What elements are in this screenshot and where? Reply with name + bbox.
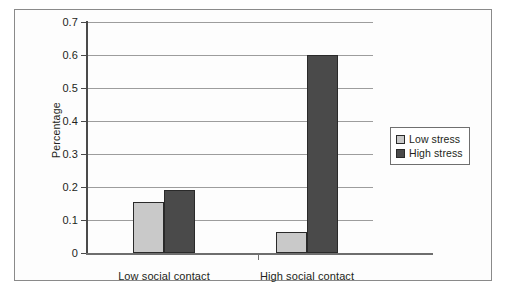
y-tick-label-0.4: 0.4 [62,115,78,127]
plot-area: 0.7 0.6 0.5 0.4 0.3 0.2 0.1 0 L [87,22,373,253]
x-axis-label-high-social-contact: High social contact [260,270,354,282]
y-tick-label-0.6: 0.6 [62,49,78,61]
bar-low-social-contact-low-stress [133,202,164,253]
bar-chart-figure: Percentage 0.7 0.6 0.5 0.4 0.3 0.2 0.1 0 [0,0,506,296]
x-axis-line [86,253,433,255]
legend-item-high-stress: High stress [396,146,463,160]
bar-high-social-contact-low-stress [276,232,307,253]
chart-legend: Low stress High stress [390,127,470,165]
bar-high-social-contact-high-stress [307,55,338,253]
bar-low-social-contact-high-stress [164,190,195,253]
legend-label-high-stress: High stress [409,147,463,159]
legend-swatch-high-stress-icon [396,149,405,158]
y-tick-label-0.5: 0.5 [62,82,78,94]
y-axis-line [86,21,88,254]
x-axis-label-low-social-contact: Low social contact [118,270,210,282]
y-tick-label-0.2: 0.2 [62,181,78,193]
y-tick-label-0.3: 0.3 [62,148,78,160]
y-tick-label-0.1: 0.1 [62,214,78,226]
y-tick-label-0: 0 [72,247,78,259]
y-tick-label-0.7: 0.7 [62,16,78,28]
y-axis-title: Percentage [50,102,62,158]
legend-swatch-low-stress-icon [396,135,405,144]
legend-item-low-stress: Low stress [396,132,463,146]
legend-label-low-stress: Low stress [409,133,460,145]
gridline-0.7 [87,22,373,23]
x-tick-divider [258,253,259,260]
